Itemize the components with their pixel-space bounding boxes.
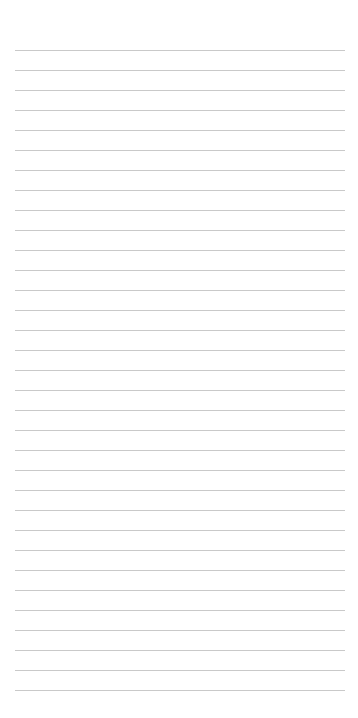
ruled-line [15,430,345,431]
ruled-line [15,390,345,391]
ruled-line [15,190,345,191]
ruled-line [15,230,345,231]
ruled-line [15,350,345,351]
lined-paper-sheet [0,0,358,718]
ruled-line [15,110,345,111]
ruled-line [15,670,345,671]
ruled-line [15,210,345,211]
ruled-line [15,270,345,271]
ruled-line [15,470,345,471]
ruled-line [15,410,345,411]
ruled-line [15,490,345,491]
ruled-line [15,50,345,51]
ruled-line [15,310,345,311]
ruled-line [15,510,345,511]
ruled-line [15,130,345,131]
ruled-line [15,590,345,591]
ruled-line [15,70,345,71]
ruled-line [15,630,345,631]
ruled-line [15,650,345,651]
ruled-line [15,290,345,291]
ruled-line [15,690,345,691]
ruled-line [15,330,345,331]
ruled-line [15,530,345,531]
ruled-line [15,90,345,91]
ruled-line [15,250,345,251]
ruled-line [15,610,345,611]
ruled-line [15,550,345,551]
ruled-line [15,450,345,451]
ruled-line [15,370,345,371]
ruled-line [15,570,345,571]
ruled-line [15,170,345,171]
ruled-line [15,150,345,151]
